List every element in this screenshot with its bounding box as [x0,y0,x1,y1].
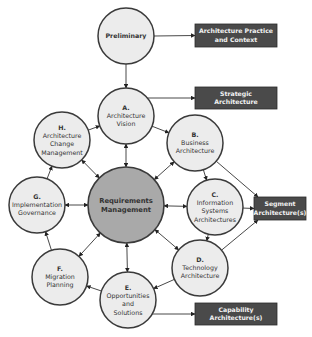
phase-letter: F. [57,265,63,272]
phase-label: Information [197,199,233,206]
phase-label: and [122,300,134,307]
edge-f-to-g [46,232,52,251]
output-label: and Context [215,36,258,43]
phase-label: Vision [117,120,136,127]
phase-letter: C. [211,191,218,198]
phase-label: Architecture [107,112,146,119]
phase-label: Architecture [43,132,82,139]
phase-node-req[interactable]: RequirementsManagement [88,167,164,243]
phase-label: Business [181,139,209,146]
phase-label: Change [50,140,74,148]
edge-req-to-c [164,206,187,207]
phase-node-h[interactable]: H.ArchitectureChangeManagement [34,112,90,168]
output-label: Architecture(s) [210,314,263,321]
phase-label: Preliminary [106,32,147,40]
output-box-capability: CapabilityArchitecture(s) [195,303,277,325]
edge-req-to-b [154,162,174,180]
phase-label: Management [101,206,152,214]
phase-node-c[interactable]: C.InformationSystemsArchitectures [187,179,243,235]
edge-req-to-h [82,160,100,178]
phase-label: Management [41,149,83,157]
phase-label: Architectures [194,216,236,223]
phase-node-f[interactable]: F.MigrationPlanning [32,249,88,305]
edge-b-to-c [203,170,206,181]
phase-node-d[interactable]: D.TechnologyArchitecture [172,240,228,296]
phase-label: Requirements [99,197,153,205]
phase-node-a[interactable]: A.ArchitectureVision [98,88,154,144]
phase-label: Governance [18,209,56,216]
phase-letter: H. [58,124,66,131]
adm-cycle-diagram: PreliminaryA.ArchitectureVisionB.Busines… [0,0,312,337]
phase-label: Architecture [176,147,215,154]
phase-node-e[interactable]: E.OpportunitiesandSolutions [100,272,156,328]
phase-letter: B. [191,131,198,138]
phase-letter: D. [196,256,204,263]
phase-letter: G. [33,193,41,200]
phase-letter: A. [122,104,129,111]
phase-node-b[interactable]: B.BusinessArchitecture [167,115,223,171]
edge-req-to-f [79,233,100,256]
phase-label: Planning [46,281,73,289]
output-label: Capability [218,306,253,314]
edge-g-to-h [47,166,52,179]
edge-e-to-f [87,286,102,291]
phase-label: Migration [45,273,75,281]
phase-node-g[interactable]: G.ImplementationGovernance [9,177,65,233]
nodes-layer: PreliminaryA.ArchitectureVisionB.Busines… [9,8,243,328]
output-label: Segment [264,200,295,208]
phase-label: Systems [202,207,229,215]
edge-req-to-e [127,243,128,272]
output-box-strategic: StrategicArchitecture [195,87,277,109]
output-box-segment: SegmentArchitecture(s) [254,197,307,220]
phase-letter: E. [125,284,132,291]
phase-label: Implementation [12,201,62,209]
phase-node-preliminary[interactable]: Preliminary [98,8,154,64]
phase-label: Solutions [114,309,143,316]
phase-label: Technology [181,264,218,272]
phase-label: Opportunities [107,292,150,300]
edge-h-to-a [88,126,100,130]
edge-d-to-e [154,279,175,288]
output-box-practice: Architecture Practiceand Context [195,24,277,47]
output-label: Architecture(s) [254,209,307,216]
output-label: Architecture [214,98,257,105]
output-label: Strategic [220,90,252,98]
output-label: Architecture Practice [199,27,273,34]
edge-c-to-d [207,234,209,241]
edge-req-to-d [155,230,179,250]
edge-preliminary-to-practice [154,36,195,37]
edge-a-to-b [152,126,169,133]
phase-label: Architecture [181,272,220,279]
